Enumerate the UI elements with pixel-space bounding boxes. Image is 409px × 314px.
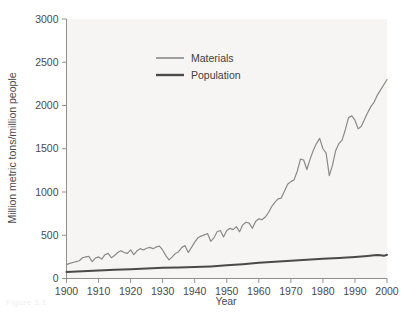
x-tick-label: 1990 <box>343 285 367 297</box>
x-tick-label: 1920 <box>119 285 143 297</box>
x-tick-label: 1930 <box>151 285 175 297</box>
y-tick-label: 0 <box>53 272 59 284</box>
y-tick-label: 1000 <box>35 186 59 198</box>
x-tick-label: 1960 <box>247 285 271 297</box>
y-tick-label: 500 <box>41 229 59 241</box>
line-chart: 050010001500200025003000 190019101920193… <box>0 0 409 314</box>
x-tick-label: 1970 <box>279 285 303 297</box>
y-axis-ticks <box>62 19 67 279</box>
y-tick-label: 3000 <box>35 13 59 25</box>
y-tick-label: 2000 <box>35 99 59 111</box>
legend-label-population: Population <box>191 69 241 81</box>
legend-label-materials: Materials <box>191 52 234 64</box>
x-tick-label: 1900 <box>55 285 79 297</box>
y-axis-tick-labels: 050010001500200025003000 <box>35 13 59 285</box>
x-axis-ticks <box>67 279 388 284</box>
x-tick-label: 1940 <box>183 285 207 297</box>
x-tick-label: 1910 <box>87 285 111 297</box>
figure-container: 050010001500200025003000 190019101920193… <box>0 0 409 314</box>
x-tick-label: 2000 <box>375 285 399 297</box>
y-axis-title: Million metric tons/million people <box>6 72 18 223</box>
y-tick-label: 2500 <box>35 56 59 68</box>
x-tick-label: 1980 <box>311 285 335 297</box>
x-axis-title: Year <box>215 295 237 307</box>
figure-caption: Figure 1.1 <box>6 298 47 307</box>
y-tick-label: 1500 <box>35 142 59 154</box>
